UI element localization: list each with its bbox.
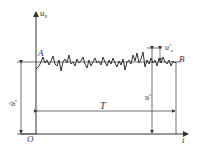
fluctuation-label: u′x: [165, 43, 174, 53]
instant-label: ux: [142, 93, 152, 100]
point-a-label: A: [37, 48, 44, 58]
period-label: T: [100, 100, 107, 111]
mean-dimension: [17, 63, 36, 134]
velocity-fluctuation-diagram: ux t O A B T u′x ūx ux: [0, 0, 199, 153]
mean-label: ūx: [8, 99, 18, 106]
origin-label: O: [27, 134, 34, 144]
y-axis-label: ux: [40, 8, 48, 19]
x-axis-label: t: [182, 135, 185, 145]
fluctuating-signal: [36, 52, 176, 71]
point-b-label: B: [179, 54, 185, 64]
period-dimension: [37, 62, 176, 134]
